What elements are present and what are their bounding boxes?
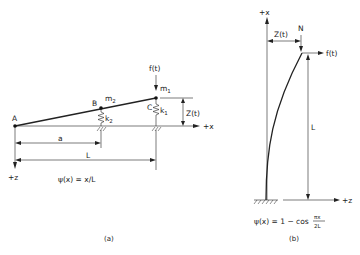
ground-hatch-b: [97, 127, 106, 131]
dim-L-arrow-right-a: [150, 158, 156, 162]
axial-load-label: N: [298, 24, 304, 33]
panel-a: +x +z A B C m2 m1 k2 k1 f(: [8, 64, 214, 243]
spring-k1: [153, 98, 159, 126]
shape-function-a: ψ(x) = x/L: [58, 175, 96, 184]
x-axis-a-arrowhead: [193, 124, 200, 128]
z-dim-b-arrow-right: [295, 39, 301, 43]
point-a-label: A: [12, 114, 18, 123]
z-axis-b-arrowhead: [334, 198, 340, 202]
z-dim-b-arrow-left: [267, 39, 273, 43]
mass-m1-label: m1: [160, 84, 171, 94]
point-b-label: B: [92, 99, 97, 108]
dim-L-label-a: L: [86, 151, 91, 160]
x-axis-b-arrowhead: [265, 17, 269, 24]
deflected-column: [266, 53, 302, 200]
dim-a-arrow-left: [15, 141, 21, 145]
diagram-canvas: +x +z A B C m2 m1 k2 k1 f(: [0, 0, 360, 255]
ground-hatch-c: [152, 127, 161, 131]
point-c-label: C: [147, 103, 152, 112]
axial-load-arrow-head: [299, 46, 303, 52]
force-arrow-b-head: [318, 51, 324, 55]
dim-L-arrow-top-b: [306, 54, 310, 60]
z-axis-a-arrowhead: [13, 162, 17, 169]
dim-L-arrow-left-a: [15, 158, 21, 162]
caption-a: (a): [104, 235, 114, 243]
x-axis-b-label: +x: [259, 8, 270, 17]
spring-k1-label: k1: [160, 106, 168, 116]
force-label-a: f(t): [149, 64, 161, 73]
dim-a-arrow-right: [95, 141, 101, 145]
rigid-bar: [15, 98, 156, 126]
point-a-dot: [13, 124, 17, 128]
z-dim-arrow-bottom: [181, 121, 185, 126]
shape-function-b-den: 2L: [314, 223, 321, 229]
force-arrow-a-head: [154, 85, 158, 91]
dim-a-label: a: [58, 134, 63, 143]
displacement-label-a: Z(t): [186, 109, 200, 118]
z-axis-a-label: +z: [8, 173, 18, 182]
caption-b: (b): [289, 235, 299, 243]
x-axis-a-label: +x: [203, 122, 214, 131]
panel-b: +x f(t) N Z(t) L +z: [254, 8, 352, 243]
dim-L-label-b: L: [311, 123, 316, 132]
fixed-base-hatch: [254, 200, 278, 204]
spring-k2: [98, 108, 104, 126]
z-dim-arrow-top: [181, 98, 185, 103]
shape-function-b: ψ(x) = 1 − cos: [254, 217, 309, 226]
displacement-label-b: Z(t): [274, 30, 288, 39]
dim-L-arrow-bottom-b: [306, 194, 310, 200]
force-label-b: f(t): [326, 49, 338, 58]
z-axis-b-label: +z: [342, 196, 352, 205]
spring-k2-label: k2: [105, 114, 113, 124]
mass-m2-label: m2: [105, 94, 116, 104]
shape-function-b-num: πx: [314, 214, 321, 220]
